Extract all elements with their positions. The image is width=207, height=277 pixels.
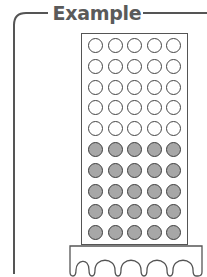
circle-row <box>88 161 186 181</box>
filled-circle-icon <box>147 163 162 178</box>
filled-circle-icon <box>108 142 123 157</box>
empty-circle-icon <box>88 59 103 74</box>
circle-row <box>88 57 186 77</box>
empty-circle-icon <box>108 38 123 53</box>
ten-frame-grid <box>81 33 188 245</box>
circle-row <box>88 78 186 98</box>
filled-circle-icon <box>88 142 103 157</box>
circle-row <box>88 182 186 202</box>
filled-circle-icon <box>127 204 142 219</box>
filled-circle-icon <box>108 163 123 178</box>
empty-circle-icon <box>127 80 142 95</box>
filled-circle-icon <box>88 225 103 240</box>
empty-circle-icon <box>88 80 103 95</box>
circle-row <box>88 140 186 160</box>
empty-circle-icon <box>147 100 162 115</box>
empty-circle-icon <box>108 121 123 136</box>
filled-circle-icon <box>166 163 181 178</box>
empty-circle-icon <box>127 38 142 53</box>
empty-circle-icon <box>108 59 123 74</box>
circle-row <box>88 119 186 139</box>
filled-circle-icon <box>127 163 142 178</box>
filled-circle-icon <box>88 204 103 219</box>
filled-circle-icon <box>127 225 142 240</box>
empty-circle-icon <box>88 38 103 53</box>
filled-circle-icon <box>147 184 162 199</box>
filled-circle-icon <box>88 163 103 178</box>
filled-circle-icon <box>108 225 123 240</box>
empty-circle-icon <box>88 121 103 136</box>
circle-row <box>88 223 186 243</box>
filled-circle-icon <box>166 204 181 219</box>
circle-row <box>88 36 186 56</box>
filled-circle-icon <box>166 225 181 240</box>
filled-circle-icon <box>166 142 181 157</box>
empty-circle-icon <box>127 100 142 115</box>
filled-circle-icon <box>108 184 123 199</box>
filled-circle-icon <box>166 184 181 199</box>
empty-circle-icon <box>166 38 181 53</box>
empty-circle-icon <box>147 38 162 53</box>
circle-row <box>88 98 186 118</box>
empty-circle-icon <box>108 80 123 95</box>
filled-circle-icon <box>147 225 162 240</box>
empty-circle-icon <box>88 100 103 115</box>
left-bracket-line <box>14 13 48 274</box>
empty-circle-icon <box>147 59 162 74</box>
empty-circle-icon <box>108 100 123 115</box>
empty-circle-icon <box>127 121 142 136</box>
frame-base <box>70 246 202 276</box>
empty-circle-icon <box>166 121 181 136</box>
empty-circle-icon <box>127 59 142 74</box>
empty-circle-icon <box>147 121 162 136</box>
example-title: Example <box>50 0 144 26</box>
empty-circle-icon <box>166 100 181 115</box>
empty-circle-icon <box>147 80 162 95</box>
empty-circle-icon <box>166 80 181 95</box>
circle-row <box>88 202 186 222</box>
filled-circle-icon <box>108 204 123 219</box>
filled-circle-icon <box>127 142 142 157</box>
filled-circle-icon <box>127 184 142 199</box>
filled-circle-icon <box>147 142 162 157</box>
filled-circle-icon <box>88 184 103 199</box>
filled-circle-icon <box>147 204 162 219</box>
empty-circle-icon <box>166 59 181 74</box>
